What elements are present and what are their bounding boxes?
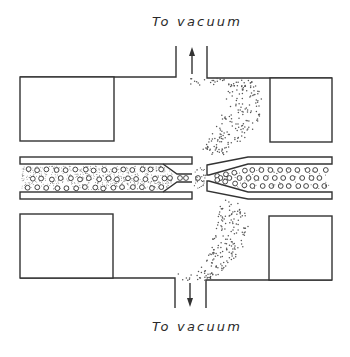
lower-left-block	[20, 214, 113, 278]
left-capillary-nozzle	[20, 157, 192, 199]
bottom-vacuum-label: To vacuum	[152, 319, 242, 334]
upper-right-block	[270, 78, 332, 142]
left-upper-plate	[20, 157, 192, 164]
lower-left-wall	[20, 278, 175, 308]
lower-right-wall	[206, 280, 332, 308]
upper-housing	[20, 46, 332, 142]
left-lower-plate	[20, 192, 192, 199]
lower-right-block	[269, 216, 332, 280]
apparatus-drawing	[0, 0, 350, 357]
right-skimmer-tube	[207, 157, 332, 199]
up-arrow-icon	[189, 47, 195, 74]
down-arrow-icon	[187, 283, 193, 307]
upper-right-wall	[207, 46, 332, 78]
upper-left-wall	[20, 46, 176, 77]
right-particle-fill	[215, 167, 329, 190]
left-particle-fill	[22, 166, 189, 191]
top-vacuum-label: To vacuum	[152, 14, 242, 29]
left-upper-taper	[163, 164, 192, 174]
lower-housing	[20, 214, 332, 308]
upper-left-block	[20, 77, 114, 141]
diagram-canvas: To vacuum To vacuum	[0, 0, 350, 357]
jet-particles	[194, 167, 207, 188]
